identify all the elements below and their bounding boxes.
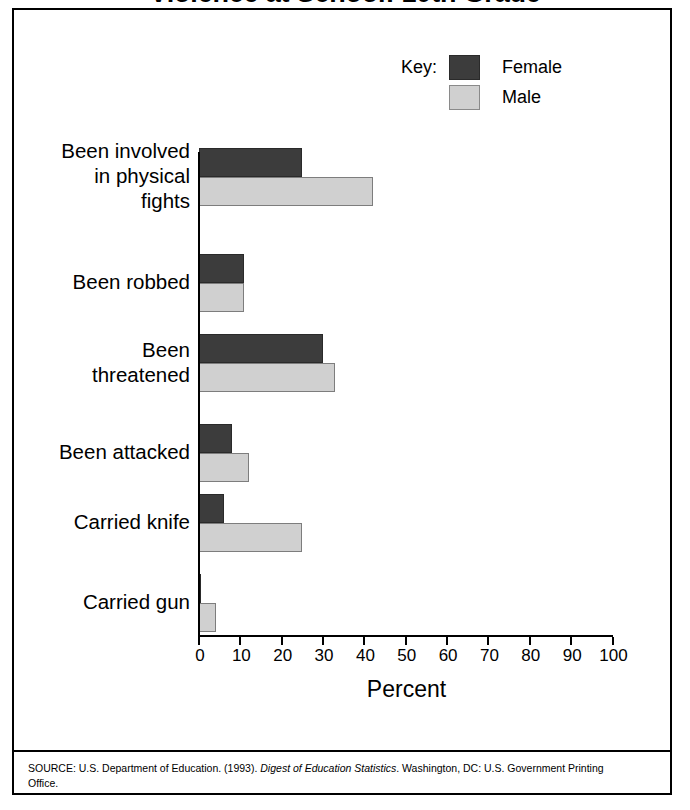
source-prefix: SOURCE: U.S. Department of Education. (1… — [28, 762, 260, 774]
legend-row-female: Key: Female — [375, 52, 625, 82]
legend-label-male: Male — [480, 87, 541, 108]
legend-swatch-male-icon — [449, 85, 480, 110]
source-note: SOURCE: U.S. Department of Education. (1… — [28, 761, 628, 790]
legend-swatch-female-icon — [449, 55, 480, 80]
legend: Key: Female Male — [375, 52, 625, 112]
figure-frame — [12, 8, 672, 795]
legend-key-label: Key: — [375, 57, 449, 78]
source-divider — [14, 750, 670, 752]
legend-label-female: Female — [480, 57, 562, 78]
legend-row-male: Male — [375, 82, 625, 112]
source-italic-title: Digest of Education Statistics — [260, 762, 396, 774]
